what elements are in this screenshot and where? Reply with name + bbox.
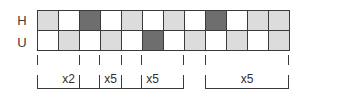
bracket-tick-right [288, 55, 289, 65]
bracket-tick-left [121, 55, 122, 65]
grid-cell [143, 31, 164, 51]
bracket-annotations: x2x5x5x5 [37, 55, 315, 95]
bracket-base [205, 88, 289, 89]
grid-cell [164, 31, 185, 51]
grid-cell [38, 11, 59, 31]
grid-cell [59, 11, 80, 31]
grid-cell [101, 11, 122, 31]
grid-cell [227, 31, 248, 51]
cell-grid [37, 10, 290, 51]
grid-cell [248, 31, 269, 51]
bracket-tick-left [37, 55, 38, 65]
bracket-tick-right [183, 55, 184, 65]
grid-cell [122, 31, 143, 51]
grid-cell [101, 31, 122, 51]
multiplier-bracket: x5 [121, 55, 184, 89]
grid-cell [185, 11, 206, 31]
bracket-tick-left [79, 55, 80, 65]
bracket-tick-left [205, 55, 206, 65]
sequence-diagram: H U x2x5x5x5 [0, 0, 338, 104]
grid-cell [206, 31, 227, 51]
bracket-label: x5 [205, 72, 289, 86]
row-label-u: U [12, 32, 32, 54]
grid-cell [122, 11, 143, 31]
grid-cell [164, 11, 185, 31]
row-u [38, 31, 290, 51]
grid-cell [38, 31, 59, 51]
grid-body [38, 11, 290, 51]
grid-cell [248, 11, 269, 31]
bracket-label: x5 [121, 72, 184, 86]
grid-cell [227, 11, 248, 31]
grid-cell [269, 31, 290, 51]
grid-cell [80, 31, 101, 51]
grid-cell [80, 11, 101, 31]
grid-cell [59, 31, 80, 51]
grid-cell [206, 11, 227, 31]
grid-cell [143, 11, 164, 31]
row-h [38, 11, 290, 31]
bracket-base [121, 88, 184, 89]
multiplier-bracket: x5 [205, 55, 289, 89]
grid-cell [269, 11, 290, 31]
row-label-h: H [12, 10, 32, 32]
grid-cell [185, 31, 206, 51]
